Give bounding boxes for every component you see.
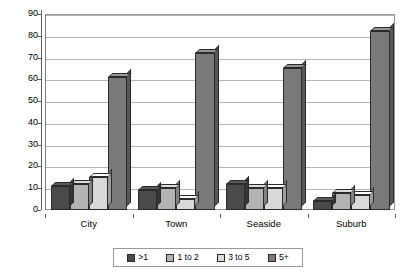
legend-swatch-icon <box>127 254 135 262</box>
legend-item[interactable]: 3 to 5 <box>217 253 249 262</box>
legend-label: 1 to 2 <box>177 253 198 262</box>
y-axis-tick-mark <box>37 58 41 59</box>
bar-front-face <box>226 184 245 210</box>
x-axis-tick-label: Seaside <box>220 218 308 229</box>
chart-legend: >11 to 23 to 55+ <box>113 248 303 267</box>
y-axis-tick-mark <box>37 123 41 124</box>
bar-front-face <box>138 190 157 210</box>
x-axis-tick-mark <box>45 214 46 218</box>
bar <box>138 190 157 210</box>
legend-swatch-icon <box>217 254 225 262</box>
bar-top-face <box>226 180 250 184</box>
legend-swatch-icon <box>268 254 276 262</box>
bar <box>313 201 332 210</box>
x-axis-tick-label: City <box>45 218 133 229</box>
bar-series-layer <box>45 14 395 210</box>
bar-side-face <box>390 23 394 206</box>
bar <box>51 186 70 210</box>
x-axis-tick-mark <box>308 214 309 218</box>
x-axis-tick-label: Suburb <box>308 218 396 229</box>
legend-item[interactable]: >1 <box>127 253 148 262</box>
bar-front-face <box>51 186 70 210</box>
x-axis-tick-label: Town <box>133 218 221 229</box>
y-axis-tick-mark <box>37 101 41 102</box>
bar-chart: 9080706050403020100 CityTownSeasideSubur… <box>0 0 411 279</box>
y-axis-tick-mark <box>37 188 41 189</box>
x-axis-tick-mark <box>220 214 221 218</box>
bar-front-face <box>195 53 214 210</box>
bar-front-face <box>313 201 332 210</box>
x-axis-tick-mark <box>395 214 396 218</box>
y-axis-tick-labels: 9080706050403020100 <box>0 0 38 279</box>
y-axis-tick-mark <box>37 210 41 211</box>
legend-label: 5+ <box>279 253 289 262</box>
legend-label: 3 to 5 <box>228 253 249 262</box>
y-axis-tick-mark <box>37 36 41 37</box>
bar <box>195 53 214 210</box>
legend-item[interactable]: 1 to 2 <box>166 253 198 262</box>
legend-label: >1 <box>138 253 148 262</box>
x-axis-tick-mark <box>133 214 134 218</box>
bar <box>226 184 245 210</box>
bar <box>370 31 389 210</box>
legend-item[interactable]: 5+ <box>268 253 289 262</box>
x-axis-category-labels: CityTownSeasideSuburb <box>45 214 395 232</box>
bar-side-face <box>215 45 219 206</box>
y-axis-tick-mark <box>37 145 41 146</box>
legend-swatch-icon <box>166 254 174 262</box>
bar-side-face <box>127 69 131 206</box>
y-axis-tick-mark <box>37 166 41 167</box>
y-axis-tick-mark <box>37 79 41 80</box>
y-axis-tick-mark <box>37 14 41 15</box>
bar-front-face <box>370 31 389 210</box>
bar-side-face <box>302 60 306 206</box>
y-axis-tick-marks <box>37 0 45 279</box>
